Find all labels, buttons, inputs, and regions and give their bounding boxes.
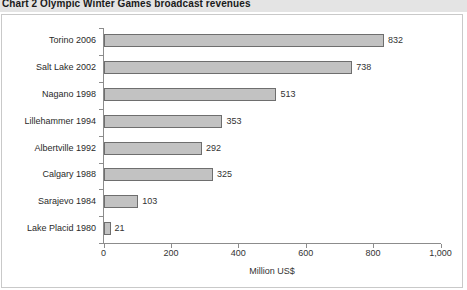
- chart-title: Chart 2 Olympic Winter Games broadcast r…: [2, 0, 251, 10]
- chart-root: Chart 2 Olympic Winter Games broadcast r…: [0, 0, 467, 290]
- chart-frame: [1, 14, 463, 288]
